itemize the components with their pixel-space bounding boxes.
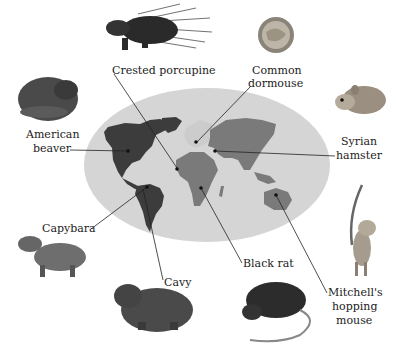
- label-black-rat: Black rat: [243, 257, 294, 270]
- label-common-dormouse-line2: dormouse: [248, 77, 303, 90]
- label-syrian-hamster-line1: Syrian: [341, 135, 377, 148]
- black-rat-illustration: [242, 282, 310, 341]
- mitchells-hopping-mouse-illustration: [351, 185, 376, 276]
- cavy-illustration: [114, 284, 193, 332]
- label-cavy: Cavy: [164, 276, 191, 289]
- label-mitchells-hopping-mouse-line2: hopping: [332, 300, 377, 313]
- label-mitchells-hopping-mouse-line3: mouse: [336, 314, 372, 327]
- rodent-distribution-diagram: Crested porcupine Common dormouse Americ…: [0, 0, 397, 351]
- capybara-illustration: [18, 236, 86, 277]
- label-common-dormouse-line1: Common: [252, 64, 302, 77]
- label-american-beaver-line2: beaver: [33, 142, 71, 155]
- syrian-hamster-illustration: [335, 85, 386, 114]
- label-syrian-hamster-line2: hamster: [336, 149, 382, 162]
- american-beaver-illustration: [18, 77, 78, 121]
- label-american-beaver-line1: American: [26, 128, 79, 141]
- label-capybara: Capybara: [42, 222, 96, 235]
- crested-porcupine-illustration: [106, 4, 212, 50]
- common-dormouse-illustration: [258, 17, 294, 53]
- label-mitchells-hopping-mouse-line1: Mitchell's: [328, 286, 383, 299]
- label-crested-porcupine: Crested porcupine: [112, 64, 216, 77]
